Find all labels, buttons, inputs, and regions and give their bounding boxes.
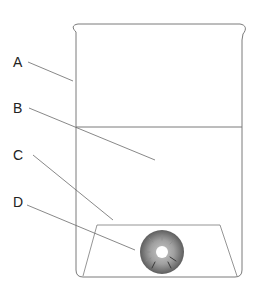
leader-line-c <box>33 155 113 220</box>
label-d: D <box>13 195 23 209</box>
leader-line-a <box>28 62 73 81</box>
leader-line-b <box>29 108 155 160</box>
label-c: C <box>13 148 23 162</box>
disc <box>140 230 184 274</box>
beaker-diagram <box>0 0 257 291</box>
label-b: B <box>13 101 22 115</box>
label-a: A <box>13 55 22 69</box>
leader-line-d <box>27 205 135 250</box>
